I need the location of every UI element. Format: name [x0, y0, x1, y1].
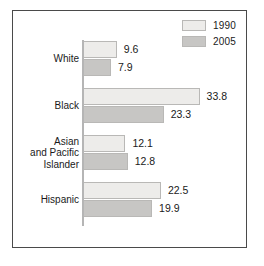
bar-row-white-2005: 7.9 — [84, 59, 133, 76]
bar-group-asian-pacific-islander: Asian and Pacific Islander 12.1 12.8 — [13, 134, 246, 172]
bar-group-black: Black 33.8 23.3 — [13, 87, 246, 125]
category-label-line: and Pacific — [30, 147, 79, 159]
bar-asian-2005 — [84, 153, 128, 170]
bar-value-white-1990: 9.6 — [124, 44, 139, 55]
bars-white: 9.6 7.9 — [84, 40, 246, 78]
bar-black-1990 — [84, 88, 200, 105]
bar-black-2005 — [84, 106, 164, 123]
bar-hispanic-2005 — [84, 200, 152, 217]
bar-row-asian-1990: 12.1 — [84, 135, 153, 152]
bar-value-hispanic-1990: 22.5 — [168, 185, 188, 196]
bar-value-black-1990: 33.8 — [207, 91, 227, 102]
plot-area: White 9.6 7.9 Black — [13, 11, 246, 247]
bar-row-asian-2005: 12.8 — [84, 153, 155, 170]
bar-white-2005 — [84, 59, 111, 76]
bar-row-hispanic-1990: 22.5 — [84, 182, 188, 199]
category-label-line: Asian — [30, 136, 79, 148]
category-label-line: Islander — [30, 159, 79, 171]
bar-asian-1990 — [84, 135, 125, 152]
bar-row-white-1990: 9.6 — [84, 41, 138, 58]
bars-asian-pacific-islander: 12.1 12.8 — [84, 134, 246, 172]
bar-hispanic-1990 — [84, 182, 161, 199]
bar-value-white-2005: 7.9 — [118, 62, 133, 73]
category-label-line: White — [53, 53, 79, 65]
bars-black: 33.8 23.3 — [84, 87, 246, 125]
bar-value-black-2005: 23.3 — [171, 109, 191, 120]
bars-hispanic: 22.5 19.9 — [84, 181, 246, 219]
bar-group-hispanic: Hispanic 22.5 19.9 — [13, 181, 246, 219]
category-label-white: White — [15, 40, 79, 78]
bar-value-hispanic-2005: 19.9 — [159, 203, 179, 214]
bar-value-asian-1990: 12.1 — [132, 138, 152, 149]
bar-value-asian-2005: 12.8 — [135, 156, 155, 167]
category-label-black: Black — [15, 87, 79, 125]
bar-group-white: White 9.6 7.9 — [13, 40, 246, 78]
category-label-line: Hispanic — [41, 194, 79, 206]
bar-white-1990 — [84, 41, 117, 58]
category-label-hispanic: Hispanic — [15, 181, 79, 219]
category-label-line: Black — [55, 100, 79, 112]
bar-row-hispanic-2005: 19.9 — [84, 200, 179, 217]
bar-row-black-1990: 33.8 — [84, 88, 227, 105]
chart-frame: 1990 2005 White 9.6 7.9 — [12, 10, 247, 248]
bar-row-black-2005: 23.3 — [84, 106, 191, 123]
category-label-asian-pacific-islander: Asian and Pacific Islander — [15, 134, 79, 172]
